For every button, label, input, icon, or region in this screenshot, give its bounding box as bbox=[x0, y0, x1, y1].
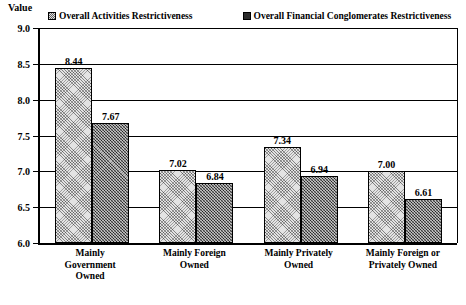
bar-value-label: 6.84 bbox=[206, 171, 224, 182]
bar-value-label: 8.44 bbox=[65, 56, 83, 67]
y-axis-tick-label: 9.0 bbox=[18, 23, 31, 34]
y-axis-tick bbox=[33, 28, 40, 29]
bar-value-label: 7.34 bbox=[273, 135, 291, 146]
bar: 6.61 bbox=[405, 199, 442, 243]
legend-label-conglomerates: Overall Financial Conglomerates Restrict… bbox=[254, 11, 452, 21]
bar: 6.84 bbox=[196, 183, 233, 243]
y-axis-tick bbox=[33, 100, 40, 101]
legend-label-activities: Overall Activities Restrictiveness bbox=[59, 11, 193, 21]
gridline bbox=[40, 64, 457, 65]
x-axis-category-label: Mainly Foreign or Privately Owned bbox=[351, 248, 455, 271]
bar: 7.34 bbox=[264, 147, 301, 243]
legend-swatch-icon-activities bbox=[48, 12, 56, 20]
plot-right-border bbox=[457, 28, 458, 243]
y-axis-tick-label: 8.5 bbox=[18, 58, 31, 69]
y-axis-tick-label: 7.5 bbox=[18, 130, 31, 141]
bar: 7.00 bbox=[368, 171, 405, 243]
bar-value-label: 6.61 bbox=[415, 187, 433, 198]
y-axis-tick-label: 7.0 bbox=[18, 166, 31, 177]
y-axis-tick bbox=[33, 171, 40, 172]
bar-value-label: 7.67 bbox=[102, 111, 120, 122]
chart-legend: Overall Activities Restrictiveness Overa… bbox=[48, 11, 451, 21]
y-axis-title: Value bbox=[8, 2, 32, 13]
legend-entry-activities: Overall Activities Restrictiveness bbox=[48, 11, 193, 21]
y-axis-tick bbox=[33, 243, 40, 244]
y-axis-tick-label: 6.5 bbox=[18, 202, 31, 213]
bar-chart: Value Overall Activities Restrictiveness… bbox=[0, 0, 466, 305]
y-axis-tick bbox=[33, 207, 40, 208]
legend-swatch-icon-conglomerates bbox=[243, 12, 251, 20]
x-axis-category-label: Mainly Government Owned bbox=[38, 248, 142, 283]
gridline bbox=[40, 100, 457, 101]
bar: 7.67 bbox=[92, 123, 129, 243]
gridline bbox=[40, 28, 457, 29]
y-axis-tick bbox=[33, 136, 40, 137]
legend-entry-conglomerates: Overall Financial Conglomerates Restrict… bbox=[243, 11, 452, 21]
bar-value-label: 6.94 bbox=[310, 164, 328, 175]
bar: 8.44 bbox=[55, 68, 92, 243]
y-axis-tick-label: 8.0 bbox=[18, 94, 31, 105]
plot-area: 9.08.58.07.57.06.56.08.447.677.026.847.3… bbox=[38, 28, 457, 245]
y-axis-tick-label: 6.0 bbox=[18, 238, 31, 249]
bar-value-label: 7.02 bbox=[169, 158, 187, 169]
bar: 7.02 bbox=[159, 170, 196, 243]
x-axis-category-label: Mainly Foreign Owned bbox=[142, 248, 246, 271]
x-axis-category-label: Mainly Privately Owned bbox=[247, 248, 351, 271]
bar-value-label: 7.00 bbox=[378, 159, 396, 170]
bar: 6.94 bbox=[301, 176, 338, 243]
y-axis-tick bbox=[33, 64, 40, 65]
